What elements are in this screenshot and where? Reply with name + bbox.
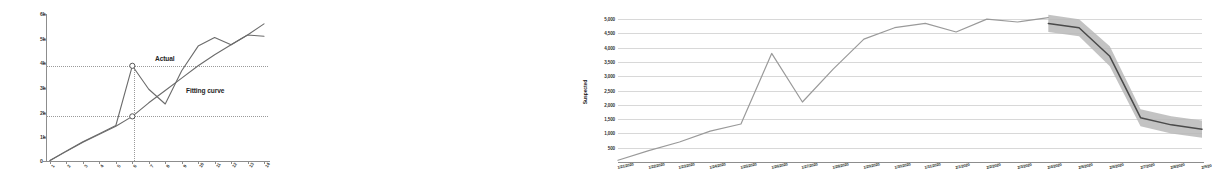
left-xtick-label: 7 bbox=[149, 164, 154, 169]
left-annotation-fitting-curve: Fitting curve bbox=[186, 87, 224, 94]
left-xtick-label: 1 bbox=[50, 164, 55, 169]
left-data-marker bbox=[130, 114, 135, 119]
left-xtick-label: 6 bbox=[132, 164, 137, 169]
left-data-marker bbox=[130, 63, 135, 68]
left-series-actual bbox=[50, 35, 264, 161]
right-xtick-label: 2/5/2020 bbox=[1078, 162, 1093, 170]
left-xtick-label: 13 bbox=[248, 162, 255, 169]
left-xtick-label: 9 bbox=[182, 164, 187, 169]
right-xtick-label: 2/7/2020 bbox=[1140, 162, 1155, 170]
right-ytick-label: 1,000 bbox=[604, 131, 615, 136]
right-y-axis-label: Suspected bbox=[582, 80, 588, 104]
left-xtick-label: 5 bbox=[116, 164, 121, 169]
right-xtick-label: 2/1/2020 bbox=[955, 162, 970, 170]
right-series-suspected-forecast bbox=[1048, 23, 1202, 129]
right-ytick-label: 2,500 bbox=[604, 88, 615, 93]
left-xtick-label: 14 bbox=[264, 162, 271, 169]
right-chart-series-svg bbox=[618, 12, 1202, 162]
right-ytick-label: 5,000 bbox=[604, 17, 615, 22]
left-series-fitting-curve bbox=[50, 24, 264, 161]
right-forecast-confidence-band bbox=[1048, 15, 1202, 138]
right-ytick-label: 3,500 bbox=[604, 60, 615, 65]
left-xtick-label: 2 bbox=[66, 164, 71, 169]
right-xtick-label: 2/2/2020 bbox=[986, 162, 1001, 170]
left-xtick-label: 10 bbox=[198, 162, 205, 169]
right-ytick-label: 3,000 bbox=[604, 74, 615, 79]
left-xtick-label: 11 bbox=[215, 162, 222, 168]
right-xtick-label: 2/9/20 bbox=[1201, 163, 1212, 170]
right-xtick-label: 2/8/2020 bbox=[1170, 162, 1185, 170]
right-ytick-label: 500 bbox=[608, 145, 615, 150]
left-chart-panel: 6k 5k 4k 3k 2k 1k 0 1234567891011121314 … bbox=[0, 0, 282, 186]
right-ytick-label: 2,000 bbox=[604, 102, 615, 107]
right-series-suspected-observed bbox=[618, 18, 1048, 161]
left-xtick-label: 4 bbox=[99, 164, 104, 169]
left-annotation-actual: Actual bbox=[155, 55, 175, 62]
left-xtick-label: 12 bbox=[231, 162, 238, 169]
right-ytick-label: 1,500 bbox=[604, 117, 615, 122]
left-chart-series-svg bbox=[46, 14, 268, 162]
right-ytick-label: 4,500 bbox=[604, 31, 615, 36]
left-xtick-label: 8 bbox=[165, 164, 170, 169]
right-xtick-label: 2/4/2020 bbox=[1047, 162, 1062, 170]
right-chart-panel: Suspected 5001,0001,5002,0002,5003,0003,… bbox=[288, 0, 922, 186]
left-xtick-label: 3 bbox=[83, 164, 88, 169]
right-xtick-label: 2/3/2020 bbox=[1017, 162, 1032, 170]
right-ytick-label: 4,000 bbox=[604, 45, 615, 50]
right-xtick-label: 2/6/2020 bbox=[1109, 162, 1124, 170]
